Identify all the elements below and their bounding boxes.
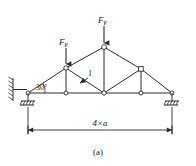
member-F-G (66, 47, 104, 68)
right-ground-hatching (164, 101, 178, 105)
truss-figure: FP FP 30° 1 4×a (a) (0, 0, 196, 166)
load-label-apex: FP (97, 15, 108, 26)
joint-H (139, 67, 144, 72)
joint-G-apex (102, 45, 107, 50)
right-support (164, 93, 179, 105)
figure-caption: (a) (93, 147, 103, 157)
member-H-E (141, 69, 172, 93)
truss-diagram-canvas: FP FP 30° 1 4×a (a) (0, 0, 196, 166)
joint-D (139, 91, 143, 95)
member-label-1: 1 (88, 69, 92, 78)
angle-label-30: 30° (36, 83, 47, 92)
joint-B (64, 91, 68, 95)
span-dimension-label: 4×a (92, 118, 108, 128)
load-label-left: FP (58, 37, 69, 48)
top-chord (28, 47, 172, 93)
load-arrows (66, 26, 104, 64)
load-label-left-subscript: P (65, 42, 69, 48)
member-G-H (104, 47, 141, 69)
member-C-H-diagonal (104, 69, 141, 93)
left-wall-hatching (9, 77, 14, 100)
left-ground-hatching (20, 101, 34, 105)
load-label-apex-subscript: P (104, 20, 108, 26)
member-F-C-diagonal (66, 68, 104, 93)
truss-joints (26, 45, 174, 96)
diagram-labels: FP FP 30° 1 4×a (a) (36, 15, 108, 157)
joint-C (102, 91, 106, 95)
web-members (66, 47, 141, 93)
joint-F (64, 66, 68, 70)
